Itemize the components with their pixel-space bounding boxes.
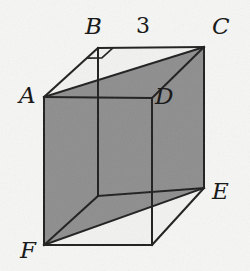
vertex-label-f: F [20,239,36,262]
vertex-label-c: C [212,15,230,38]
vertex-label-a: A [19,84,36,107]
paper-grain-texture [0,0,250,271]
cuboid-diagram-canvas [0,0,250,271]
vertex-label-d: D [155,85,173,108]
vertex-label-b: B [85,15,102,38]
geometry-figure: A B C D E F 3 [0,0,250,271]
vertex-label-e: E [212,180,229,203]
edge-length-label-bc: 3 [136,15,150,37]
